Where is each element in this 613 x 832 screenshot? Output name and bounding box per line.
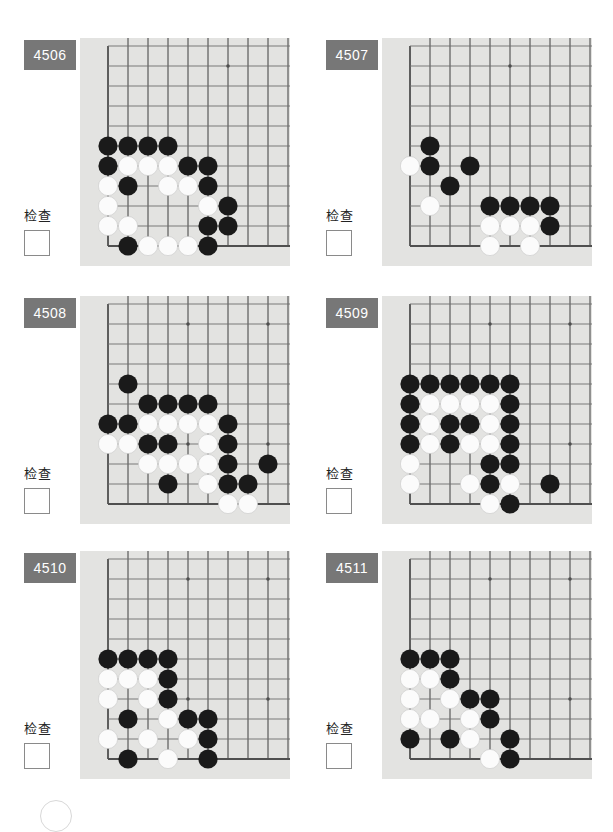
black-stone[interactable] [218,474,237,493]
black-stone[interactable] [138,136,157,155]
black-stone[interactable] [198,176,217,195]
black-stone[interactable] [400,729,419,748]
white-stone[interactable] [198,454,217,473]
black-stone[interactable] [440,176,459,195]
black-stone[interactable] [138,434,157,453]
white-stone[interactable] [500,474,519,493]
black-stone[interactable] [98,649,117,668]
white-stone[interactable] [420,669,439,688]
white-stone[interactable] [480,414,499,433]
white-stone[interactable] [400,156,419,175]
black-stone[interactable] [520,196,539,215]
black-stone[interactable] [158,136,177,155]
white-stone[interactable] [178,454,197,473]
black-stone[interactable] [500,394,519,413]
black-stone[interactable] [218,196,237,215]
black-stone[interactable] [500,196,519,215]
black-stone[interactable] [158,394,177,413]
white-stone[interactable] [178,729,197,748]
white-stone[interactable] [198,196,217,215]
white-stone[interactable] [480,394,499,413]
white-stone[interactable] [238,494,257,513]
black-stone[interactable] [480,454,499,473]
black-stone[interactable] [98,156,117,175]
white-stone[interactable] [138,689,157,708]
black-stone[interactable] [500,434,519,453]
black-stone[interactable] [98,136,117,155]
white-stone[interactable] [460,729,479,748]
white-stone[interactable] [198,474,217,493]
go-board-4507[interactable] [382,38,592,266]
check-checkbox[interactable] [326,230,352,256]
black-stone[interactable] [500,374,519,393]
black-stone[interactable] [400,414,419,433]
black-stone[interactable] [158,669,177,688]
check-checkbox[interactable] [326,743,352,769]
black-stone[interactable] [198,709,217,728]
white-stone[interactable] [98,196,117,215]
white-stone[interactable] [480,216,499,235]
white-stone[interactable] [440,394,459,413]
check-checkbox[interactable] [24,743,50,769]
white-stone[interactable] [118,669,137,688]
black-stone[interactable] [500,749,519,768]
black-stone[interactable] [218,216,237,235]
black-stone[interactable] [420,136,439,155]
black-stone[interactable] [400,374,419,393]
black-stone[interactable] [540,196,559,215]
black-stone[interactable] [540,474,559,493]
black-stone[interactable] [400,649,419,668]
black-stone[interactable] [480,709,499,728]
black-stone[interactable] [158,649,177,668]
white-stone[interactable] [178,176,197,195]
white-stone[interactable] [158,454,177,473]
white-stone[interactable] [420,434,439,453]
white-stone[interactable] [420,196,439,215]
black-stone[interactable] [480,689,499,708]
black-stone[interactable] [440,374,459,393]
white-stone[interactable] [118,216,137,235]
black-stone[interactable] [138,394,157,413]
white-stone[interactable] [98,729,117,748]
white-stone[interactable] [520,236,539,255]
black-stone[interactable] [158,689,177,708]
black-stone[interactable] [178,709,197,728]
white-stone[interactable] [98,669,117,688]
white-stone[interactable] [460,434,479,453]
white-stone[interactable] [480,749,499,768]
white-stone[interactable] [480,236,499,255]
black-stone[interactable] [198,729,217,748]
black-stone[interactable] [500,494,519,513]
white-stone[interactable] [138,729,157,748]
black-stone[interactable] [400,394,419,413]
go-board-4506[interactable] [80,38,290,266]
white-stone[interactable] [138,156,157,175]
black-stone[interactable] [118,374,137,393]
black-stone[interactable] [440,729,459,748]
black-stone[interactable] [198,236,217,255]
white-stone[interactable] [158,749,177,768]
white-stone[interactable] [420,709,439,728]
black-stone[interactable] [420,156,439,175]
black-stone[interactable] [118,709,137,728]
black-stone[interactable] [178,394,197,413]
white-stone[interactable] [158,176,177,195]
white-stone[interactable] [400,474,419,493]
black-stone[interactable] [98,414,117,433]
black-stone[interactable] [440,414,459,433]
black-stone[interactable] [118,414,137,433]
white-stone[interactable] [500,216,519,235]
white-stone[interactable] [198,414,217,433]
white-stone[interactable] [138,669,157,688]
check-checkbox[interactable] [24,488,50,514]
black-stone[interactable] [480,374,499,393]
black-stone[interactable] [178,156,197,175]
white-stone[interactable] [198,434,217,453]
white-stone[interactable] [138,454,157,473]
black-stone[interactable] [198,394,217,413]
black-stone[interactable] [540,216,559,235]
white-stone[interactable] [138,236,157,255]
white-stone[interactable] [460,394,479,413]
black-stone[interactable] [198,216,217,235]
black-stone[interactable] [138,649,157,668]
